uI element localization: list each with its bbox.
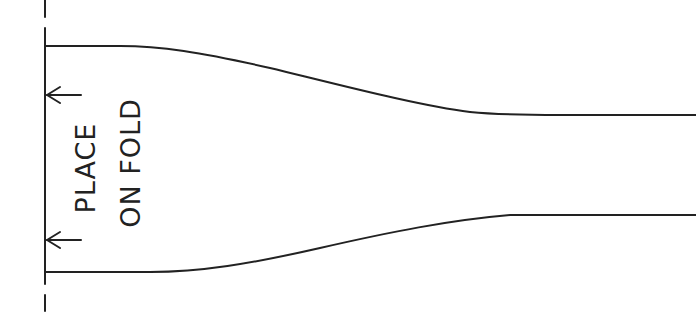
on-fold-label: ON FOLD <box>117 98 144 228</box>
place-label: PLACE <box>72 123 99 214</box>
pattern-piece-drawing <box>0 0 696 325</box>
arrow-left-icon <box>47 87 81 103</box>
arrow-left-icon <box>47 232 81 248</box>
